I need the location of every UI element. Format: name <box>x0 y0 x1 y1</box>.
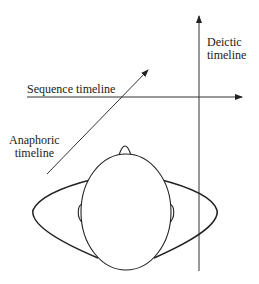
deictic-label-line2: timeline <box>207 49 246 62</box>
deictic-timeline-label: Deictic timeline <box>207 36 246 62</box>
anaphoric-label-line2: timeline <box>9 147 60 160</box>
head-outline <box>81 154 171 270</box>
sequence-timeline-label: Sequence timeline <box>27 83 115 96</box>
anaphoric-timeline-label: Anaphoric timeline <box>9 134 60 160</box>
